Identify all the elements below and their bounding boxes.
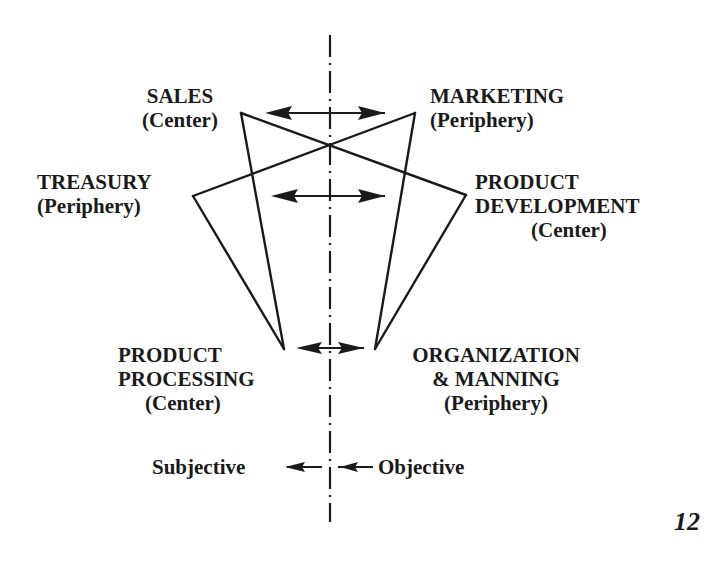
arrowhead-left — [265, 106, 292, 120]
double-arrow-sales-marketing — [265, 106, 385, 120]
arrowhead-left — [271, 189, 298, 203]
node-product-development: PRODUCT DEVELOPMENT (Center) — [475, 170, 640, 242]
node-treasury-name: TREASURY — [37, 170, 152, 194]
subjective-arrow — [285, 462, 322, 472]
axis-label-objective: Objective — [378, 455, 464, 480]
node-sales: SALES (Center) — [130, 84, 230, 132]
node-organization-manning: ORGANIZATION & MANNING (Periphery) — [386, 343, 606, 415]
node-product-processing: PRODUCT PROCESSING (Center) — [118, 343, 255, 415]
node-product-processing-line2: PROCESSING — [118, 367, 255, 391]
node-sales-name: SALES — [130, 84, 230, 108]
arrowhead-right — [358, 189, 385, 203]
node-organization-manning-role: (Periphery) — [386, 391, 606, 415]
node-marketing-name: MARKETING — [430, 84, 564, 108]
node-treasury-role: (Periphery) — [37, 194, 152, 218]
node-product-processing-line1: PRODUCT — [118, 343, 255, 367]
node-product-development-line1: PRODUCT — [475, 170, 640, 194]
node-organization-manning-line2: & MANNING — [386, 367, 606, 391]
node-marketing-role: (Periphery) — [430, 108, 564, 132]
page-number: 12 — [674, 507, 700, 537]
node-sales-role: (Center) — [130, 108, 230, 132]
arrowhead-subjective — [285, 462, 305, 472]
diagram-canvas — [0, 0, 723, 564]
node-organization-manning-line1: ORGANIZATION — [386, 343, 606, 367]
objective-arrow — [338, 462, 373, 472]
node-marketing: MARKETING (Periphery) — [430, 84, 564, 132]
node-product-processing-role: (Center) — [118, 391, 255, 415]
arrowhead-right — [358, 106, 385, 120]
double-arrow-treasury-product-development — [271, 189, 385, 203]
node-product-development-line2: DEVELOPMENT — [475, 194, 640, 218]
node-product-development-role: (Center) — [475, 218, 640, 242]
axis-label-subjective: Subjective — [152, 455, 245, 480]
node-treasury: TREASURY (Periphery) — [37, 170, 152, 218]
